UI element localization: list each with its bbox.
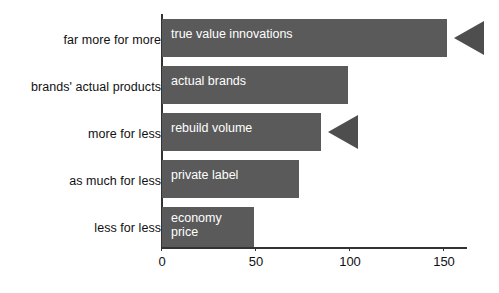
bar-chart: far more for more brands' actual product… xyxy=(0,0,499,293)
bar-label-0: true value innovations xyxy=(171,27,293,41)
bar-label-2: rebuild volume xyxy=(171,121,252,135)
x-tick-50 xyxy=(255,247,256,251)
x-tick-label-0: 0 xyxy=(158,254,165,269)
x-tick-100 xyxy=(349,247,350,251)
bar-label-3: private label xyxy=(171,168,238,182)
x-tick-label-100: 100 xyxy=(339,254,361,269)
bar-label-4: economy price xyxy=(171,211,222,239)
x-tick-0 xyxy=(161,247,162,251)
category-label-4: less for less xyxy=(94,221,161,235)
plot-area: true value innovations actual brands reb… xyxy=(162,14,468,248)
category-label-0: far more for more xyxy=(64,33,161,47)
category-label-2: more for less xyxy=(88,127,161,141)
bar-less-for-less: economy price xyxy=(162,207,254,247)
x-tick-150 xyxy=(443,247,444,251)
category-label-1: brands' actual products xyxy=(31,80,161,94)
bar-more-for-less: rebuild volume xyxy=(162,113,321,151)
bar-brands-actual-products: actual brands xyxy=(162,66,348,104)
category-label-3: as much for less xyxy=(69,174,161,188)
bar-label-1: actual brands xyxy=(171,74,246,88)
bar-as-much-for-less: private label xyxy=(162,160,299,198)
x-tick-label-50: 50 xyxy=(249,254,263,269)
x-axis-line xyxy=(161,247,467,249)
arrow-marker-far-more-for-more xyxy=(454,21,484,55)
x-tick-label-150: 150 xyxy=(433,254,455,269)
bar-far-more-for-more: true value innovations xyxy=(162,19,447,57)
arrow-marker-more-for-less xyxy=(328,115,358,149)
